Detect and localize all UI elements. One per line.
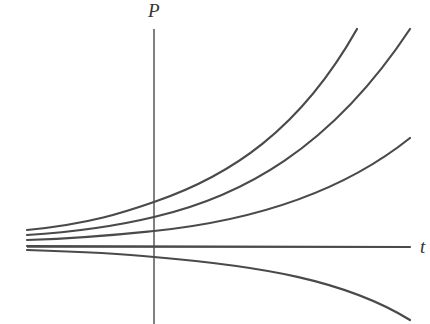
- curve-growth-fast: [27, 29, 357, 230]
- curve-growth-medium: [27, 29, 410, 235]
- curve-equilibrium: [27, 246, 410, 247]
- curve-growth-slow: [27, 138, 410, 240]
- p-axis-label: P: [148, 0, 160, 22]
- t-axis-label: t: [420, 236, 425, 258]
- exponential-solutions-diagram: [0, 0, 430, 324]
- curve-decay: [27, 250, 410, 320]
